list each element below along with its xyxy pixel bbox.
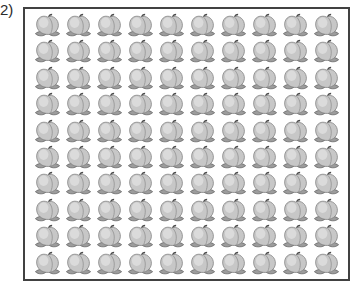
peach-icon <box>219 39 250 65</box>
peach-icon <box>250 171 281 197</box>
peach-icon <box>95 92 126 118</box>
peach-icon <box>250 198 281 224</box>
peach-icon <box>250 13 281 39</box>
peach-icon <box>219 198 250 224</box>
peach-icon <box>157 171 188 197</box>
peach-icon <box>157 251 188 277</box>
peach-icon <box>250 119 281 145</box>
peach-icon <box>188 145 219 171</box>
peach-icon <box>33 92 64 118</box>
peach-icon <box>95 171 126 197</box>
peach-icon <box>219 66 250 92</box>
peach-icon <box>126 145 157 171</box>
peach-icon <box>188 224 219 250</box>
peach-icon <box>250 224 281 250</box>
peach-icon <box>33 251 64 277</box>
peach-icon <box>126 119 157 145</box>
peach-icon <box>312 145 343 171</box>
peach-icon <box>95 66 126 92</box>
peach-icon <box>281 251 312 277</box>
peach-icon <box>64 224 95 250</box>
peach-icon <box>33 119 64 145</box>
peach-icon <box>64 66 95 92</box>
peach-icon <box>250 39 281 65</box>
peach-icon <box>219 13 250 39</box>
peach-icon <box>157 198 188 224</box>
peach-icon <box>312 39 343 65</box>
peach-icon <box>126 198 157 224</box>
peach-icon <box>157 119 188 145</box>
peach-icon <box>64 39 95 65</box>
peach-icon <box>33 171 64 197</box>
peach-icon <box>281 198 312 224</box>
peach-icon <box>64 92 95 118</box>
peach-icon <box>33 198 64 224</box>
peach-icon <box>33 39 64 65</box>
peach-icon <box>250 92 281 118</box>
peach-icon <box>219 251 250 277</box>
peach-icon <box>312 224 343 250</box>
peach-icon <box>281 119 312 145</box>
peach-icon <box>157 224 188 250</box>
peach-icon <box>219 92 250 118</box>
peach-icon <box>126 13 157 39</box>
peach-icon <box>33 66 64 92</box>
peach-icon <box>188 171 219 197</box>
peach-icon <box>157 39 188 65</box>
peach-icon <box>281 92 312 118</box>
peach-icon <box>281 171 312 197</box>
peach-icon <box>64 119 95 145</box>
peach-icon <box>126 92 157 118</box>
peach-icon <box>126 224 157 250</box>
peach-icon <box>126 171 157 197</box>
peach-icon <box>188 92 219 118</box>
peach-icon <box>64 13 95 39</box>
peach-icon <box>95 145 126 171</box>
peach-icon <box>219 171 250 197</box>
peach-icon <box>281 66 312 92</box>
peach-icon <box>281 39 312 65</box>
peach-icon <box>157 145 188 171</box>
peach-icon <box>64 171 95 197</box>
peach-icon <box>312 92 343 118</box>
peach-icon <box>188 66 219 92</box>
peach-icon <box>281 13 312 39</box>
peach-icon <box>95 39 126 65</box>
peach-icon <box>95 13 126 39</box>
peach-icon <box>219 145 250 171</box>
fruit-grid <box>33 13 343 277</box>
peach-icon <box>312 251 343 277</box>
peach-icon <box>126 66 157 92</box>
peach-icon <box>219 224 250 250</box>
peach-icon <box>188 13 219 39</box>
peach-icon <box>188 251 219 277</box>
peach-icon <box>250 66 281 92</box>
peach-icon <box>188 119 219 145</box>
peach-icon <box>312 66 343 92</box>
peach-icon <box>33 13 64 39</box>
peach-icon <box>250 145 281 171</box>
peach-icon <box>126 251 157 277</box>
peach-icon <box>126 39 157 65</box>
peach-icon <box>188 198 219 224</box>
peach-icon <box>157 13 188 39</box>
peach-icon <box>312 171 343 197</box>
peach-icon <box>95 251 126 277</box>
peach-icon <box>64 251 95 277</box>
peach-icon <box>157 92 188 118</box>
peach-icon <box>312 198 343 224</box>
peach-icon <box>64 145 95 171</box>
question-number-label: 2) <box>0 1 13 18</box>
peach-icon <box>250 251 281 277</box>
peach-icon <box>281 224 312 250</box>
peach-icon <box>33 145 64 171</box>
peach-icon <box>33 224 64 250</box>
pictograph-frame <box>23 7 350 281</box>
peach-icon <box>312 119 343 145</box>
peach-icon <box>312 13 343 39</box>
peach-icon <box>95 198 126 224</box>
peach-icon <box>188 39 219 65</box>
peach-icon <box>157 66 188 92</box>
peach-icon <box>95 224 126 250</box>
peach-icon <box>95 119 126 145</box>
